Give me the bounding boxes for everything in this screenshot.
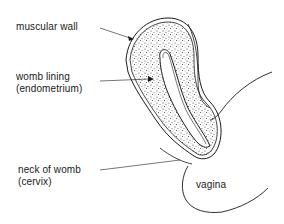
uterus-illustration [0,0,284,224]
leader-cervix [100,160,180,170]
leader-muscular-wall [100,28,130,38]
label-endometrium: (endometrium) [16,83,82,94]
uterus-diagram: muscular wall womb lining (endometrium) … [0,0,284,224]
label-neck-of-womb: neck of womb [18,164,81,175]
anterior-curve [210,72,272,120]
label-womb-lining: womb lining [16,71,70,82]
label-cervix: (cervix) [18,176,52,187]
label-vagina: vagina [196,179,226,190]
label-muscular-wall: muscular wall [16,21,78,32]
